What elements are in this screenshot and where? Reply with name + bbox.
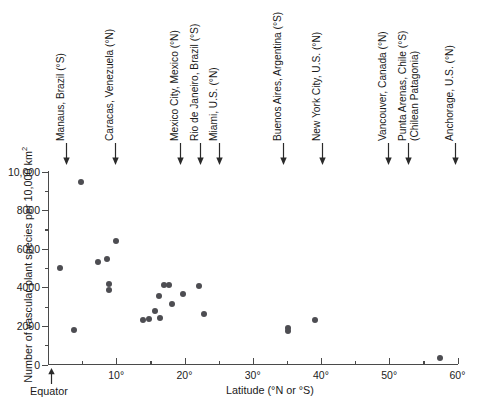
- city-label: Rio de Janeiro, Brazil (°S): [189, 24, 200, 141]
- data-point: [106, 287, 112, 293]
- city-arrow-icon: [175, 143, 186, 165]
- x-minor-tick-mark: [219, 361, 220, 365]
- x-minor-tick-mark: [423, 361, 424, 365]
- city-label: Manaus, Brazil (°S): [55, 53, 66, 141]
- data-point: [152, 308, 158, 314]
- data-point: [113, 238, 119, 244]
- city-arrow-icon: [278, 143, 289, 165]
- x-tick-label: 50°: [381, 369, 397, 381]
- city-label: (Chilean Patagonia): [408, 51, 419, 141]
- city-label: Buenos Aires, Argentina (°S): [272, 12, 283, 141]
- city-label: Caracas, Venezuela (°N): [104, 29, 115, 141]
- y-minor-tick-mark: [45, 307, 49, 308]
- data-point: [104, 256, 110, 262]
- data-point: [146, 316, 152, 322]
- x-axis-title: Latitude (°N or °S): [140, 384, 400, 396]
- x-tick-label: 40°: [313, 369, 329, 381]
- y-tick-mark: [42, 249, 48, 250]
- scatter-plot-figure: Manaus, Brazil (°S)Caracas, Venezuela (°…: [0, 0, 480, 402]
- data-point: [95, 259, 101, 265]
- x-tick-mark: [116, 358, 117, 364]
- y-tick-mark: [42, 210, 48, 211]
- data-point: [157, 315, 163, 321]
- equator-label: Equator: [30, 385, 68, 397]
- x-tick-label: 10°: [108, 369, 124, 381]
- x-tick-mark: [185, 358, 186, 364]
- y-tick-mark: [42, 365, 48, 366]
- city-arrow-icon: [403, 143, 414, 165]
- x-tick-label: 60°: [449, 369, 465, 381]
- city-label: New York City, U.S. (°N): [311, 32, 322, 141]
- x-tick-label: 30°: [245, 369, 261, 381]
- y-tick-mark: [42, 172, 48, 173]
- city-arrow-icon: [110, 143, 121, 165]
- city-label: Vancouver, Canada (°N): [377, 31, 388, 141]
- x-minor-tick-mark: [287, 361, 288, 365]
- data-point: [201, 311, 207, 317]
- data-point: [196, 283, 202, 289]
- city-label: Miami, U.S. (°N): [208, 67, 219, 141]
- y-tick-mark: [42, 326, 48, 327]
- x-minor-tick-mark: [150, 361, 151, 365]
- city-label: Punta Arenas, Chile (°S): [397, 30, 408, 141]
- data-point: [180, 291, 186, 297]
- data-point: [169, 301, 175, 307]
- x-minor-tick-mark: [82, 361, 83, 365]
- data-point: [57, 265, 63, 271]
- y-minor-tick-mark: [45, 229, 49, 230]
- city-arrow-icon: [450, 143, 461, 165]
- y-minor-tick-mark: [45, 191, 49, 192]
- data-point: [71, 327, 77, 333]
- city-arrow-icon: [383, 143, 394, 165]
- city-arrow-icon: [317, 143, 328, 165]
- y-minor-tick-mark: [45, 345, 49, 346]
- data-point: [312, 317, 318, 323]
- data-point: [140, 317, 146, 323]
- data-point: [437, 355, 443, 361]
- x-minor-tick-mark: [355, 361, 356, 365]
- x-tick-mark: [321, 358, 322, 364]
- x-axis-line: [48, 364, 458, 365]
- city-label: Mexico City, Mexico (°N): [169, 30, 180, 141]
- city-arrow-icon: [61, 143, 72, 165]
- city-arrow-icon: [195, 143, 206, 165]
- y-axis-title: Number of vascular plant species per 10,…: [20, 140, 34, 390]
- x-tick-mark: [253, 358, 254, 364]
- y-tick-mark: [42, 287, 48, 288]
- data-point: [285, 328, 291, 334]
- x-tick-label: 20°: [176, 369, 192, 381]
- data-point: [156, 293, 162, 299]
- y-minor-tick-mark: [45, 268, 49, 269]
- x-tick-mark: [389, 358, 390, 364]
- data-point: [78, 179, 84, 185]
- data-point: [166, 282, 172, 288]
- x-tick-mark: [458, 358, 459, 364]
- city-arrow-icon: [214, 143, 225, 165]
- city-label: Anchorage, U.S. (°N): [444, 45, 455, 141]
- equator-arrow-icon: [46, 368, 57, 384]
